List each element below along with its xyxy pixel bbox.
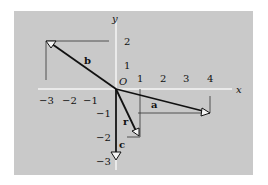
arrowhead-a-icon (201, 108, 210, 116)
x-tick: 2 (160, 73, 166, 84)
y-axis-label: y (111, 13, 118, 24)
vector-b (52, 44, 116, 89)
x-tick: 3 (183, 73, 189, 84)
y-tick: −2 (96, 132, 111, 143)
y-tick: −3 (96, 156, 111, 167)
arrowhead-b-icon (46, 41, 56, 48)
x-tick: −2 (62, 95, 77, 106)
x-tick: 4 (207, 73, 213, 84)
vector-b-label: b (84, 55, 91, 66)
arrowhead-c-icon (111, 152, 121, 160)
y-tick: −1 (96, 108, 111, 119)
origin-label: O (119, 76, 127, 87)
x-tick: −1 (83, 95, 98, 106)
y-tick: 2 (124, 36, 130, 47)
vector-diagram: y x O −3 −2 −1 1 2 3 4 2 1 −1 −2 −3 a b … (0, 0, 268, 185)
x-tick: 1 (137, 73, 143, 84)
y-tick: 1 (124, 60, 130, 71)
vector-a-label: a (151, 99, 158, 110)
vector-c-label: c (119, 139, 125, 150)
vector-r-label: r (123, 116, 129, 127)
x-tick: −3 (39, 95, 54, 106)
vector-a (116, 89, 203, 111)
x-axis-label: x (236, 84, 242, 95)
arrowhead-r-icon (132, 128, 139, 136)
